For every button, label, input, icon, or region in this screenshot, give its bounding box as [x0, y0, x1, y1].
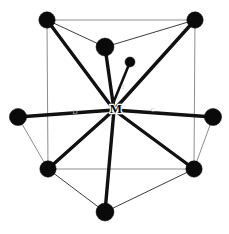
frame-edge-bottomleft-to-cap — [48, 169, 105, 212]
frame-edge-bottomright-to-cap — [105, 169, 194, 212]
atom-lower-center — [96, 203, 114, 221]
label-upper-ligand: T — [121, 84, 125, 90]
frame-edge-left-axial — [18, 117, 48, 169]
atom-left-axial — [9, 108, 26, 125]
bond-M-to-bottom-left — [48, 110, 114, 169]
frame-edge-right-vertical — [194, 20, 195, 169]
atom-small-ligand-upper — [125, 57, 135, 67]
coordination-polyhedron-diagram: D C T M — [0, 0, 229, 234]
figure-root: D C T M — [0, 0, 229, 234]
atom-top-left — [39, 12, 55, 28]
bond-M-to-lower-center — [105, 110, 114, 212]
label-right-ligand: C — [151, 106, 156, 114]
bond-M-to-top-left — [47, 20, 114, 110]
atom-top-right — [187, 12, 203, 28]
atom-bottom-right — [186, 161, 202, 177]
atom-upper-center — [96, 38, 114, 56]
atom-bottom-left — [40, 161, 56, 177]
bond-M-to-bottom-right — [114, 110, 194, 169]
bond-M-to-right-axial — [114, 110, 213, 117]
center-metal-label: M — [110, 101, 122, 116]
label-left-ligand: D — [72, 108, 77, 116]
atom-right-axial — [204, 108, 221, 125]
frame-edge-left-vertical — [47, 20, 48, 169]
bond-M-to-left-axial — [18, 110, 114, 117]
